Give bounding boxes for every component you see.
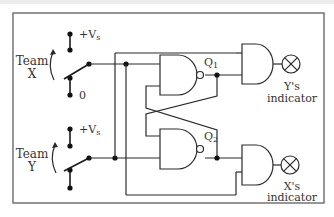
team-x-label-2: X: [28, 67, 37, 81]
nand-gate-2: [160, 129, 204, 169]
curved-arrow-icon: [50, 52, 54, 80]
team-x-vs-label: +Vs: [79, 28, 100, 42]
team-x-switch: [50, 31, 92, 97]
circuit-diagram: Team X +Vs 0 Team Y +Vs: [0, 0, 334, 217]
y-indicator-label-2: indicator: [267, 92, 318, 105]
curved-arrow-icon: [52, 145, 56, 173]
team-y-switch: [52, 126, 92, 190]
x-indicator-label-2: indicator: [267, 191, 318, 204]
and-gate-2: [242, 145, 281, 185]
team-y-label-2: Y: [27, 160, 37, 174]
x-indicator-lamp-icon: [281, 156, 299, 174]
nand-gate-1: [160, 55, 204, 95]
y-indicator-lamp-icon: [282, 55, 300, 73]
top-strip: [0, 0, 334, 4]
q1-label: Q1: [204, 56, 218, 70]
team-x-zero-label: 0: [79, 89, 86, 102]
and-gate-1: [242, 44, 282, 84]
team-y-label-1: Team: [16, 147, 49, 161]
q2-label: Q2: [204, 130, 218, 144]
team-y-vs-label: +Vs: [79, 123, 100, 137]
team-x-label-1: Team: [16, 54, 49, 68]
